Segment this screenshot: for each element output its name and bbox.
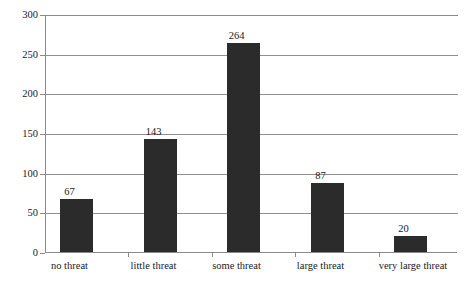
x-axis-label-little-threat: little threat — [114, 261, 194, 272]
bar-value-label: 143 — [124, 127, 184, 138]
y-axis-tick-label: 100 — [0, 169, 38, 180]
x-axis-tick-mark — [128, 253, 129, 257]
bar-value-label: 67 — [40, 187, 100, 198]
gridline-300 — [46, 15, 458, 16]
x-axis-tick-mark — [379, 253, 380, 257]
plot-area — [45, 15, 457, 253]
bar-chart: 300 250 200 150 100 50 0 67 143 264 87 2… — [0, 0, 466, 284]
y-axis-tick-label: 200 — [0, 89, 38, 100]
bar-very-large-threat — [394, 236, 427, 252]
y-axis-tick-label: 0 — [0, 248, 38, 259]
y-axis-tick-label: 250 — [0, 50, 38, 61]
bar-value-label: 20 — [374, 224, 434, 235]
x-axis-tick-mark — [212, 253, 213, 257]
bar-value-label: 264 — [207, 31, 267, 42]
x-axis-label-some-threat: some threat — [197, 261, 277, 272]
y-axis-tick-mark — [40, 253, 45, 254]
x-axis-label-very-large-threat: very large threat — [356, 261, 466, 272]
bar-large-threat — [311, 183, 344, 252]
y-axis-tick-label: 150 — [0, 129, 38, 140]
bar-some-threat — [227, 43, 260, 252]
bar-no-threat — [60, 199, 93, 252]
x-axis-label-no-threat: no threat — [30, 261, 110, 272]
y-axis-tick-label: 50 — [0, 208, 38, 219]
x-axis-tick-mark — [295, 253, 296, 257]
y-axis-tick-label: 300 — [0, 10, 38, 21]
x-axis-label-large-threat: large threat — [281, 261, 361, 272]
bar-little-threat — [144, 139, 177, 252]
bar-value-label: 87 — [291, 171, 351, 182]
